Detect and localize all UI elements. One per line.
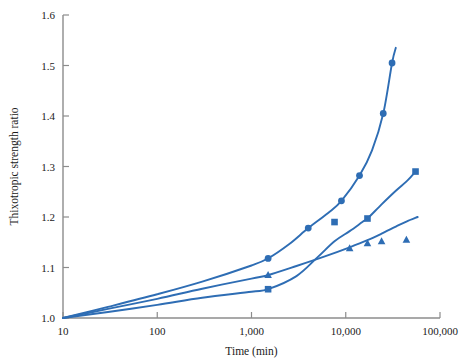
y-tick-label: 1.6 <box>41 9 55 21</box>
data-point-square <box>364 215 371 222</box>
data-point-circle <box>265 255 272 262</box>
y-axis-title: Thixotropic strength ratio <box>8 107 21 225</box>
y-tick-label: 1.0 <box>41 312 55 324</box>
x-tick-label: 10 <box>58 325 70 337</box>
data-point-square <box>412 168 419 175</box>
data-point-circle <box>338 197 345 204</box>
data-point-circle <box>380 110 387 117</box>
data-point-circle <box>305 225 312 232</box>
plot-area: 101001,00010,000100,0001.01.11.21.31.41.… <box>8 9 458 358</box>
data-point-circle <box>356 172 363 179</box>
data-point-square <box>331 219 338 226</box>
y-tick-label: 1.1 <box>41 262 55 274</box>
y-tick-label: 1.5 <box>41 60 55 72</box>
data-point-triangle <box>378 237 386 244</box>
chart-canvas: 101001,00010,000100,0001.01.11.21.31.41.… <box>0 0 464 363</box>
x-tick-label: 100,000 <box>422 325 458 337</box>
x-tick-label: 100 <box>149 325 166 337</box>
x-axis-title: Time (min) <box>225 345 277 358</box>
data-point-circle <box>389 60 396 67</box>
series-line-triangle <box>63 217 418 318</box>
x-tick-label: 10,000 <box>331 325 362 337</box>
data-point-triangle <box>403 236 411 243</box>
data-point-triangle <box>364 239 372 246</box>
series-line-square <box>63 172 416 318</box>
series-line-circle <box>63 48 396 318</box>
chart-figure: 101001,00010,000100,0001.01.11.21.31.41.… <box>0 0 464 363</box>
data-point-square <box>265 286 272 293</box>
x-tick-label: 1,000 <box>239 325 264 337</box>
y-tick-label: 1.3 <box>41 161 55 173</box>
y-tick-label: 1.2 <box>41 211 55 223</box>
y-tick-label: 1.4 <box>41 110 55 122</box>
